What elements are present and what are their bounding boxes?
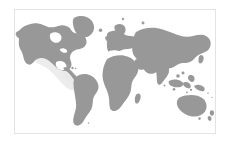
island-pacific-2 (211, 97, 212, 98)
region-iceland (99, 29, 103, 33)
island-novaya-zemlya (142, 21, 145, 24)
island-falklands (88, 122, 90, 124)
island-pacific-1 (207, 93, 209, 94)
island-cuba (67, 64, 70, 67)
island-svalbard (122, 18, 124, 20)
world-map-svg[interactable] (15, 10, 215, 133)
region-tasmania (198, 117, 201, 120)
island-sri-lanka (164, 84, 166, 86)
world-map-widget[interactable] (14, 9, 216, 134)
island-hispaniola (71, 67, 73, 69)
island-puerto-rico (75, 68, 77, 69)
